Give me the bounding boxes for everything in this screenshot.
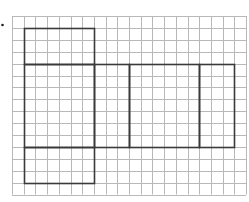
dot-marker-icon xyxy=(1,24,4,27)
grid-net-diagram xyxy=(0,0,249,202)
